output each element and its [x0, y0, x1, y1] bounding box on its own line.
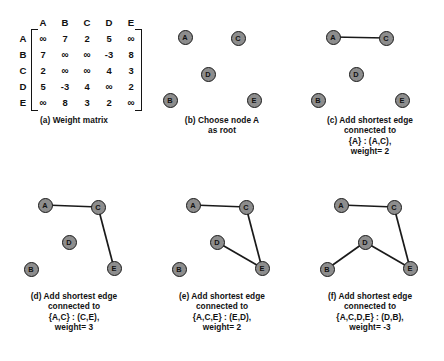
matrix-cell: ∞	[32, 30, 54, 46]
matrix-cell: 4	[76, 78, 98, 94]
panel-c-caption: (c) Add shortest edge connected to {A} :…	[296, 115, 444, 157]
matrix-cell: -3	[54, 78, 76, 94]
graph-node-D: D	[62, 235, 77, 250]
matrix-corner	[14, 14, 32, 30]
graph-node-C: C	[379, 31, 394, 46]
matrix-cell: ∞	[76, 46, 98, 62]
matrix-cell: ∞	[76, 62, 98, 78]
caption-line: weight= -3	[299, 322, 441, 332]
graph-node-B: B	[24, 262, 39, 277]
caption-line: {A,C} : (C,E),	[3, 312, 145, 322]
panel-d-caption: (d) Add shortest edge connected to {A,C}…	[0, 291, 148, 333]
caption-line: (b) Choose node A	[151, 115, 293, 125]
graph-c: A C D B E	[296, 12, 444, 115]
graph-node-C: C	[387, 200, 402, 215]
caption-line: connected to	[151, 301, 293, 311]
caption-line: {A,C,D,E} : (D,B),	[299, 312, 441, 322]
panel-e-caption: (e) Add shortest edge connected to {A,C,…	[148, 291, 296, 333]
panel-c: A C D B E (c) Add shortest edge connecte…	[296, 12, 444, 157]
matrix-cell: 8	[120, 46, 142, 62]
graph-node-A: A	[334, 198, 349, 213]
graph-b: A C D B E	[148, 12, 296, 115]
caption-line: weight= 3	[3, 322, 145, 332]
caption-line: weight= 2	[299, 146, 441, 156]
panel-e: A C D B E (e) Add shortest edge connecte…	[148, 188, 296, 333]
matrix-col-header-C: C	[76, 14, 98, 30]
panel-b: A C D B E (b) Choose node A as root	[148, 12, 296, 136]
matrix-cell: 2	[120, 78, 142, 94]
panel-a-caption: (a) Weight matrix	[0, 115, 148, 125]
graph-node-A: A	[186, 198, 201, 213]
graph-node-B: B	[172, 262, 187, 277]
matrix-cell: ∞	[32, 94, 54, 110]
matrix-cell: ∞	[54, 62, 76, 78]
graph-node-D: D	[358, 235, 373, 250]
panel-f: A C D B E (f) Add shortest edge connecte…	[296, 188, 444, 333]
graph-node-A: A	[326, 30, 341, 45]
caption-line: {A,C,E} : (E,D),	[151, 312, 293, 322]
matrix-cell: 4	[98, 62, 120, 78]
panel-a: A B C D E A ∞ 7 2 5 ∞ B 7 ∞ ∞ -3 8 C 2 ∞	[0, 12, 148, 125]
graph-node-B: B	[320, 262, 335, 277]
matrix-row-header-A: A	[14, 30, 32, 46]
caption-line: as root	[151, 125, 293, 135]
graph-node-D: D	[210, 235, 225, 250]
matrix-cell: -3	[98, 46, 120, 62]
matrix-cell: 7	[54, 30, 76, 46]
edge-C-E	[98, 207, 114, 268]
caption-line: connected to	[299, 125, 441, 135]
edge-C-E	[394, 207, 410, 268]
graph-node-D: D	[201, 67, 216, 82]
weight-matrix: A B C D E A ∞ 7 2 5 ∞ B 7 ∞ ∞ -3 8 C 2 ∞	[0, 12, 148, 115]
matrix-col-header-B: B	[54, 14, 76, 30]
caption-line: (e) Add shortest edge	[151, 291, 293, 301]
graph-node-D: D	[349, 67, 364, 82]
caption-line: (d) Add shortest edge	[3, 291, 145, 301]
graph-node-B: B	[163, 93, 178, 108]
caption-line: weight= 2	[151, 322, 293, 332]
panel-d: A C D B E (d) Add shortest edge connecte…	[0, 188, 148, 333]
panel-f-caption: (f) Add shortest edge connected to {A,C,…	[296, 291, 444, 333]
panel-b-caption: (b) Choose node A as root	[148, 115, 296, 136]
graph-node-B: B	[311, 93, 326, 108]
graph-node-C: C	[231, 31, 246, 46]
matrix-cell: ∞	[120, 94, 142, 110]
edge-C-E	[246, 207, 262, 268]
matrix-cell: ∞	[120, 30, 142, 46]
graph-node-E: E	[395, 93, 410, 108]
matrix-cell: 5	[98, 30, 120, 46]
graph-node-A: A	[178, 30, 193, 45]
matrix-grid: A B C D E A ∞ 7 2 5 ∞ B 7 ∞ ∞ -3 8 C 2 ∞	[14, 14, 142, 110]
matrix-col-header-A: A	[32, 14, 54, 30]
matrix-cell: 2	[98, 94, 120, 110]
caption-line: (f) Add shortest edge	[299, 291, 441, 301]
graph-node-C: C	[91, 200, 106, 215]
caption-line: {A} : (A,C),	[299, 136, 441, 146]
matrix-cell: 2	[76, 30, 98, 46]
graph-node-E: E	[247, 93, 262, 108]
matrix-cell: 5	[32, 78, 54, 94]
matrix-cell: 7	[32, 46, 54, 62]
graph-node-E: E	[255, 261, 270, 276]
matrix-cell: 8	[54, 94, 76, 110]
graph-d: A C D B E	[0, 188, 148, 291]
matrix-cell: ∞	[98, 78, 120, 94]
graph-node-E: E	[107, 261, 122, 276]
matrix-row-header-C: C	[14, 62, 32, 78]
graph-node-A: A	[38, 198, 53, 213]
figure-prims-algorithm: A B C D E A ∞ 7 2 5 ∞ B 7 ∞ ∞ -3 8 C 2 ∞	[0, 0, 444, 361]
graph-e: A C D B E	[148, 188, 296, 291]
matrix-row-header-E: E	[14, 94, 32, 110]
caption-line: (a) Weight matrix	[3, 115, 145, 125]
graph-node-E: E	[403, 261, 418, 276]
caption-line: (c) Add shortest edge	[299, 115, 441, 125]
matrix-row-header-B: B	[14, 46, 32, 62]
graph-f: A C D B E	[296, 188, 444, 291]
matrix-cell: 3	[120, 62, 142, 78]
matrix-cell: 2	[32, 62, 54, 78]
caption-line: connected to	[3, 301, 145, 311]
graph-node-C: C	[239, 200, 254, 215]
matrix-cell: ∞	[54, 46, 76, 62]
matrix-row-header-D: D	[14, 78, 32, 94]
matrix-cell: 3	[76, 94, 98, 110]
